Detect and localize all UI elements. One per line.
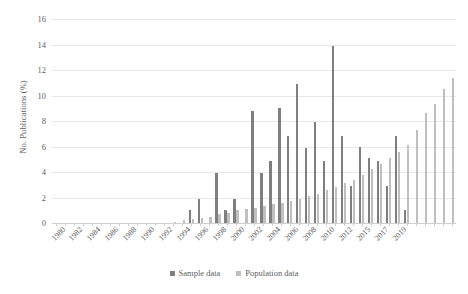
- population-bar: [425, 113, 427, 223]
- population-bar: [236, 210, 238, 223]
- bar-category: [133, 19, 142, 223]
- legend-swatch-icon: [170, 271, 175, 276]
- sample-bar: [368, 158, 370, 223]
- bar-category: [366, 19, 375, 223]
- bar-category: [52, 19, 61, 223]
- sample-bar: [314, 122, 316, 223]
- population-bar: [245, 209, 247, 223]
- population-bar: [380, 164, 382, 223]
- y-tick-label-6: 6: [42, 142, 46, 152]
- population-bar: [281, 203, 283, 223]
- sample-bar: [395, 136, 397, 223]
- bar-category: [205, 19, 214, 223]
- bar-category: [88, 19, 97, 223]
- legend-label: Sample data: [179, 268, 221, 278]
- bar-category: [447, 19, 456, 223]
- bar-category: [294, 19, 303, 223]
- bar-category: [402, 19, 411, 223]
- chart-legend: Sample dataPopulation data: [0, 268, 468, 278]
- sample-bar: [377, 161, 379, 223]
- bar-category: [339, 19, 348, 223]
- bar-category: [61, 19, 70, 223]
- population-bar: [326, 190, 328, 223]
- population-bar: [362, 175, 364, 223]
- bar-category: [214, 19, 223, 223]
- legend-label: Population data: [245, 268, 298, 278]
- bar-category: [250, 19, 259, 223]
- population-bar: [452, 78, 454, 223]
- bar-category: [151, 19, 160, 223]
- bar-category: [384, 19, 393, 223]
- bar-category: [375, 19, 384, 223]
- population-bar: [398, 152, 400, 223]
- sample-bar: [404, 210, 406, 223]
- population-bar: [218, 214, 220, 223]
- population-bar: [272, 204, 274, 223]
- sample-bar: [215, 173, 217, 223]
- legend-item[interactable]: Sample data: [170, 268, 221, 278]
- bar-category: [357, 19, 366, 223]
- y-tick-label-8: 8: [42, 116, 46, 126]
- population-bar: [416, 130, 418, 223]
- bar-category: [97, 19, 106, 223]
- population-bar: [335, 187, 337, 223]
- bar-category: [169, 19, 178, 223]
- population-bar: [389, 158, 391, 223]
- y-tick-label-14: 14: [38, 40, 47, 50]
- bar-category: [258, 19, 267, 223]
- bar-category: [321, 19, 330, 223]
- population-bar: [443, 89, 445, 223]
- bar-category: [276, 19, 285, 223]
- bar-category: [429, 19, 438, 223]
- population-bar: [407, 145, 409, 223]
- bar-category: [124, 19, 133, 223]
- population-bar: [308, 196, 310, 223]
- sample-bar: [323, 161, 325, 223]
- sample-bar: [305, 148, 307, 223]
- population-bar: [263, 206, 265, 223]
- bar-category: [70, 19, 79, 223]
- bar-category: [115, 19, 124, 223]
- sample-bar: [332, 46, 334, 223]
- sample-bar: [350, 186, 352, 223]
- population-bar: [434, 104, 436, 223]
- population-bar: [290, 201, 292, 223]
- legend-item[interactable]: Population data: [236, 268, 298, 278]
- sample-bar: [287, 136, 289, 223]
- sample-bar: [233, 199, 235, 223]
- sample-bar: [224, 210, 226, 223]
- population-bar: [227, 213, 229, 223]
- sample-bar: [251, 111, 253, 223]
- bar-group: [52, 19, 456, 223]
- bar-category: [79, 19, 88, 223]
- population-bar: [299, 199, 301, 223]
- bar-category: [178, 19, 187, 223]
- sample-bar: [278, 108, 280, 223]
- population-bar: [317, 194, 319, 223]
- bar-category: [106, 19, 115, 223]
- bar-category: [223, 19, 232, 223]
- sample-bar: [189, 210, 191, 223]
- x-axis-labels: 1980198219841986198819901992199419961998…: [52, 225, 456, 269]
- bar-category: [393, 19, 402, 223]
- bar-category: [420, 19, 429, 223]
- bar-category: [285, 19, 294, 223]
- legend-swatch-icon: [236, 271, 241, 276]
- bar-category: [312, 19, 321, 223]
- y-tick-label-2: 2: [42, 193, 46, 203]
- y-tick-label-12: 12: [38, 65, 47, 75]
- bar-category: [438, 19, 447, 223]
- sample-bar: [359, 147, 361, 224]
- bar-category: [142, 19, 151, 223]
- y-tick-label-10: 10: [38, 91, 47, 101]
- y-tick-label-16: 16: [38, 14, 47, 24]
- sample-bar: [386, 186, 388, 223]
- bar-category: [348, 19, 357, 223]
- population-bar: [371, 169, 373, 223]
- bar-category: [303, 19, 312, 223]
- y-tick-label-4: 4: [42, 167, 46, 177]
- population-bar: [344, 183, 346, 223]
- bar-category: [241, 19, 250, 223]
- bar-category: [160, 19, 169, 223]
- bar-category: [330, 19, 339, 223]
